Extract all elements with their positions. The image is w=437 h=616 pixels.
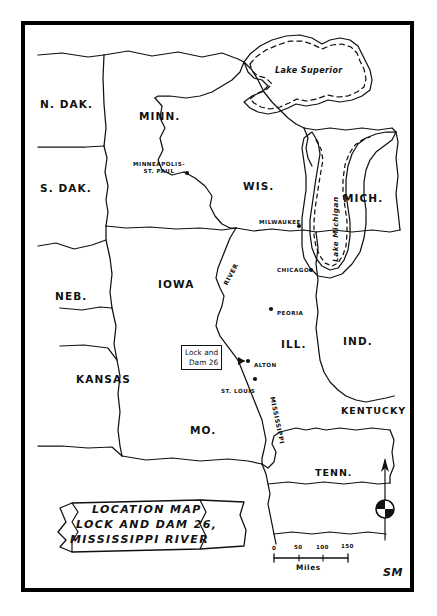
- state-label-iowa: IOWA: [158, 278, 194, 290]
- title-line-1: LOCATION MAP: [70, 503, 217, 516]
- lake-superior-label: Lake Superior: [275, 66, 343, 75]
- state-label-ind: IND.: [343, 335, 373, 347]
- state-label-mo: MO.: [190, 424, 216, 436]
- state-label-kentucky: KENTUCKY: [341, 405, 406, 416]
- city-dot-peoria: [269, 307, 273, 311]
- scale-tick-label-150: 150: [341, 543, 354, 549]
- state-label-mich: MICH.: [343, 192, 383, 204]
- state-label-minn: MINN.: [139, 110, 180, 122]
- lake-michigan-label: Lake Michigan: [331, 196, 340, 262]
- city-label-minneapolis-st-paul: MINNEAPOLIS- ST. PAUL: [133, 161, 185, 174]
- callout-line-1: Lock and: [185, 348, 218, 358]
- city-dot-st-louis: [253, 377, 257, 381]
- state-label-kansas: KANSAS: [76, 373, 131, 385]
- author-signature: SM: [383, 566, 403, 579]
- city-dot-alton: [246, 359, 250, 363]
- scale-tick-label-0: 0: [272, 545, 276, 551]
- scale-tick-label-50: 50: [294, 544, 302, 550]
- state-label-s-dak: S. DAK.: [40, 182, 92, 194]
- state-label-wis: WIS.: [243, 180, 274, 192]
- city-label-alton: ALTON: [254, 362, 277, 368]
- scale-units-label: Miles: [296, 563, 321, 572]
- location-map: N. DAK.S. DAK.NEB.KANSASMINN.IOWAMO.WIS.…: [0, 0, 437, 616]
- lock-and-dam-callout[interactable]: Lock and Dam 26: [181, 345, 222, 370]
- city-dot-minneapolis: [185, 171, 189, 175]
- map-linework: [0, 0, 437, 616]
- title-line-2: LOCK AND DAM 26,: [70, 518, 217, 531]
- state-label-tenn: TENN.: [315, 467, 352, 478]
- city-label-st-louis: ST. LOUIS: [221, 388, 255, 394]
- state-label-neb: NEB.: [55, 290, 87, 302]
- state-label-n-dak: N. DAK.: [40, 98, 93, 110]
- city-label-peoria: PEORIA: [277, 310, 303, 316]
- title-line-3: MISSISSIPPI RIVER: [70, 533, 217, 546]
- callout-line-2: Dam 26: [185, 358, 218, 368]
- city-label-chicago: CHICAGO: [277, 267, 309, 273]
- state-label-ill: ILL.: [281, 338, 307, 350]
- title-block: LOCATION MAP LOCK AND DAM 26, MISSISSIPP…: [70, 503, 217, 546]
- city-dot-chicago: [309, 268, 313, 272]
- city-label-milwaukee: MILWAUKEE: [259, 219, 301, 225]
- scale-tick-label-100: 100: [316, 544, 329, 550]
